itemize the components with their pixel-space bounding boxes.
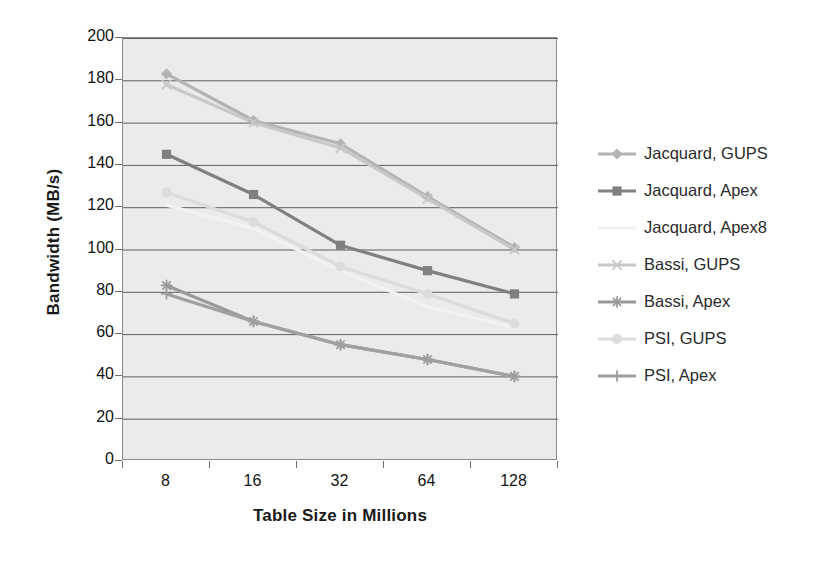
y-axis-tick-label: 20 [62, 408, 114, 426]
data-point-marker [611, 370, 622, 381]
y-axis-tick-label: 160 [62, 112, 114, 130]
series-line [167, 192, 515, 323]
x-axis-tick-label: 32 [305, 472, 375, 490]
y-axis-tick-label: 60 [62, 323, 114, 341]
x-axis-tick-label: 16 [218, 472, 288, 490]
series-line [167, 85, 515, 250]
legend-item[interactable]: Bassi, GUPS [596, 246, 811, 283]
data-point-marker [249, 217, 259, 227]
legend-item[interactable]: Jacquard, GUPS [596, 135, 811, 172]
x-axis-tick-label: 128 [479, 472, 549, 490]
data-point-marker [612, 186, 621, 195]
y-axis-tick-label: 40 [62, 365, 114, 383]
y-axis-tick-label: 100 [62, 239, 114, 257]
series-line [167, 74, 515, 247]
legend-key-none-icon [596, 218, 638, 238]
y-axis-tick-mark [115, 375, 122, 376]
legend-item[interactable]: Jacquard, Apex [596, 172, 811, 209]
y-axis-tick-mark [115, 79, 122, 80]
y-axis-tick-mark [115, 249, 122, 250]
legend-item[interactable]: PSI, GUPS [596, 320, 811, 357]
y-axis-tick-label: 80 [62, 281, 114, 299]
data-point-marker [162, 150, 171, 159]
y-axis-tick-label: 0 [62, 450, 114, 468]
chart-legend: Jacquard, GUPSJacquard, ApexJacquard, Ap… [596, 135, 811, 394]
legend-item-label: PSI, GUPS [638, 329, 727, 348]
x-axis-tick-mark [296, 461, 297, 468]
data-point-marker [510, 289, 519, 298]
x-axis-tick-label: 64 [392, 472, 462, 490]
data-point-marker [423, 266, 432, 275]
legend-item-label: Jacquard, Apex8 [638, 218, 767, 237]
data-point-marker [612, 334, 622, 344]
y-axis-title: Bandwidth (MB/s) [44, 92, 64, 392]
y-axis-tick-label: 200 [62, 27, 114, 45]
data-point-marker [249, 190, 258, 199]
data-point-marker [162, 187, 172, 197]
y-axis-tick-mark [115, 206, 122, 207]
legend-key-diamond-icon [596, 144, 638, 164]
x-axis-tick-mark [209, 461, 210, 468]
legend-key-asterisk-icon [596, 292, 638, 312]
data-point-marker [336, 261, 346, 271]
legend-key-square-icon [596, 181, 638, 201]
data-point-marker [510, 319, 520, 329]
data-point-marker [611, 148, 622, 159]
legend-item-label: Bassi, GUPS [638, 255, 740, 274]
plot-series-svg [123, 38, 558, 461]
legend-key-x-icon [596, 255, 638, 275]
legend-item-label: Jacquard, Apex [638, 181, 758, 200]
plot-area [122, 37, 557, 460]
x-axis-title: Table Size in Millions [122, 506, 558, 526]
data-point-marker [611, 296, 623, 308]
data-point-marker [161, 68, 172, 79]
x-axis-tick-label: 8 [131, 472, 201, 490]
y-axis-tick-label: 120 [62, 196, 114, 214]
legend-item-label: Bassi, Apex [638, 292, 730, 311]
y-axis-tick-mark [115, 37, 122, 38]
y-axis-tick-mark [115, 164, 122, 165]
y-axis-tick-mark [115, 460, 122, 461]
chart-figure: Bandwidth (MB/s) 02040608010012014016018… [0, 0, 817, 561]
legend-item-label: Jacquard, GUPS [638, 144, 768, 163]
x-axis-tick-mark [383, 461, 384, 468]
y-axis-tick-mark [115, 122, 122, 123]
legend-item[interactable]: PSI, Apex [596, 357, 811, 394]
data-point-marker [161, 288, 172, 299]
legend-key-circle-icon [596, 329, 638, 349]
y-axis-tick-mark [115, 291, 122, 292]
y-axis-tick-label: 180 [62, 69, 114, 87]
y-axis-tick-label: 140 [62, 154, 114, 172]
y-axis-tick-mark [115, 333, 122, 334]
series-line [167, 154, 515, 294]
legend-item-label: PSI, Apex [638, 366, 716, 385]
x-axis-tick-mark [122, 461, 123, 468]
legend-item[interactable]: Jacquard, Apex8 [596, 209, 811, 246]
data-point-marker [336, 241, 345, 250]
x-axis-tick-mark [470, 461, 471, 468]
data-point-marker [423, 289, 433, 299]
series-line [167, 285, 515, 376]
legend-item[interactable]: Bassi, Apex [596, 283, 811, 320]
legend-key-plus-icon [596, 366, 638, 386]
x-axis-tick-mark [557, 461, 558, 468]
y-axis-tick-mark [115, 418, 122, 419]
